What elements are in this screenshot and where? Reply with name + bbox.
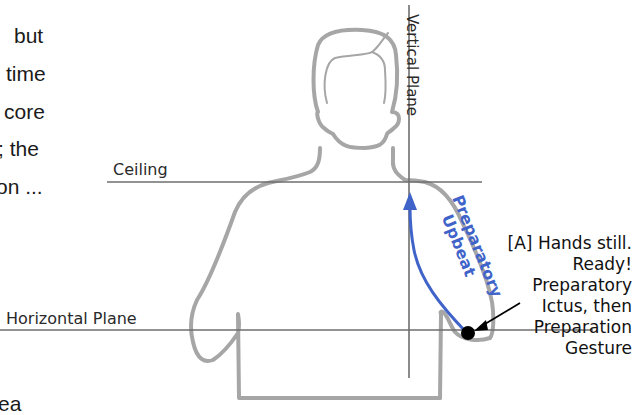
ceiling-label: Ceiling — [113, 160, 168, 179]
pointer-arrowhead-icon — [474, 320, 488, 331]
annotation-line: [A] Hands still. — [508, 233, 632, 254]
annotation-line: Ictus, then — [508, 296, 632, 317]
vertical-plane-label: Vertical Plane — [403, 14, 421, 116]
annotation-line: Gesture — [508, 338, 632, 359]
annotation-line: Preparatory — [508, 275, 632, 296]
annotation-line: Preparation — [508, 317, 632, 338]
ictus-dot — [461, 326, 475, 340]
ready-annotation: [A] Hands still. Ready! Preparatory Ictu… — [508, 233, 632, 359]
horizontal-plane-label: Horizontal Plane — [6, 309, 137, 328]
annotation-line: Ready! — [508, 254, 632, 275]
upbeat-arrowhead-icon — [403, 192, 417, 210]
